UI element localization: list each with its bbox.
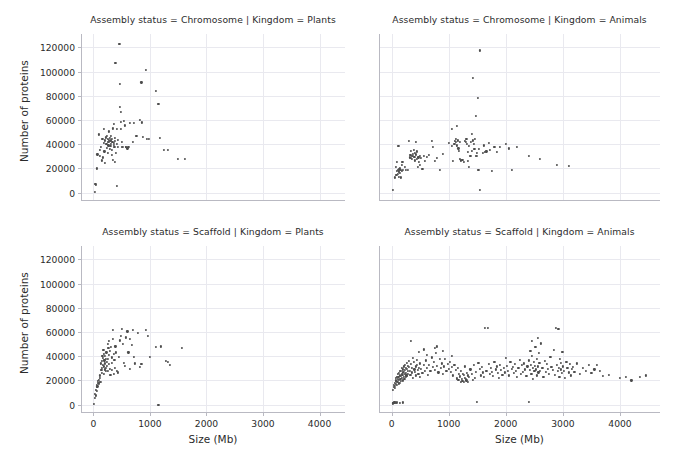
data-point [420, 368, 422, 370]
y-tick-mark [78, 144, 81, 145]
panel-title-scaffold-animals: Assembly status = Scaffold | Kingdom = A… [379, 226, 660, 237]
data-point [428, 364, 430, 366]
data-point [425, 359, 427, 361]
y-tick-label: 0 [69, 187, 75, 198]
data-point [467, 160, 469, 162]
data-point [524, 368, 526, 370]
data-point [155, 346, 157, 348]
data-point [129, 338, 131, 340]
data-point [588, 364, 590, 366]
x-tick-mark [93, 413, 94, 416]
axis-spine-left [81, 34, 82, 201]
y-tick-label: 100000 [40, 278, 75, 289]
data-point [478, 188, 480, 190]
data-point [531, 340, 533, 342]
data-point [109, 145, 111, 147]
data-point [95, 394, 97, 396]
data-point [131, 344, 133, 346]
data-point [533, 360, 535, 362]
data-point [111, 148, 113, 150]
data-point [483, 376, 485, 378]
data-point [396, 161, 398, 163]
plot-area-scaffold-animals [379, 246, 660, 413]
y-tick-label: 20000 [46, 163, 75, 174]
data-point [590, 372, 592, 374]
data-point [107, 152, 109, 154]
data-point [508, 374, 510, 376]
data-point [428, 154, 430, 156]
y-tick-mark [78, 96, 81, 97]
data-point [427, 374, 429, 376]
data-point [479, 49, 481, 51]
x-tick-mark [206, 413, 207, 416]
data-point [534, 346, 536, 348]
data-point [563, 370, 565, 372]
data-point [568, 371, 570, 373]
data-point [112, 337, 114, 339]
data-point [106, 365, 108, 367]
data-point [496, 151, 498, 153]
data-point [430, 356, 432, 358]
y-tick-label: 80000 [46, 90, 75, 101]
data-point [412, 357, 414, 359]
gridline-horizontal [379, 308, 660, 309]
data-point [493, 145, 495, 147]
data-point [517, 367, 519, 369]
y-tick-mark [78, 405, 81, 406]
gridline-vertical [150, 246, 151, 413]
data-point [582, 367, 584, 369]
data-point [132, 141, 134, 143]
x-tick-label: 4000 [608, 418, 631, 429]
data-point [408, 360, 410, 362]
gridline-vertical [206, 34, 207, 201]
data-point [438, 358, 440, 360]
data-point [468, 145, 470, 147]
data-point [554, 374, 556, 376]
data-point [124, 365, 126, 367]
gridline-horizontal [379, 284, 660, 285]
data-point [110, 135, 112, 137]
data-point [135, 135, 137, 137]
data-point [392, 389, 394, 391]
data-point [523, 362, 525, 364]
x-tick-mark [263, 413, 264, 416]
data-point [114, 161, 116, 163]
gridline-vertical [263, 246, 264, 413]
data-point [409, 374, 411, 376]
data-point [400, 164, 402, 166]
data-point [529, 369, 531, 371]
data-point [422, 155, 424, 157]
data-point [541, 367, 543, 369]
y-tick-label: 120000 [40, 42, 75, 53]
y-tick-mark [78, 72, 81, 73]
data-point [122, 343, 124, 345]
data-point [119, 106, 121, 108]
data-point [525, 375, 527, 377]
gridline-horizontal [81, 259, 345, 260]
data-point [410, 367, 412, 369]
data-point [136, 331, 138, 333]
data-point [539, 158, 541, 160]
data-point [464, 365, 466, 367]
data-point [478, 148, 480, 150]
data-point [125, 336, 127, 338]
data-point [518, 359, 520, 361]
data-point [602, 375, 604, 377]
x-axis-label-right: Size (Mb) [495, 433, 544, 445]
data-point [167, 148, 169, 150]
data-point [475, 371, 477, 373]
data-point [442, 350, 444, 352]
y-tick-label: 40000 [46, 139, 75, 150]
axis-spine-bottom [81, 412, 345, 413]
data-point [421, 168, 423, 170]
gridline-vertical [506, 34, 507, 201]
data-point [429, 370, 431, 372]
data-point [115, 152, 117, 154]
data-point [608, 374, 610, 376]
gridline-horizontal [81, 308, 345, 309]
data-point [560, 368, 562, 370]
data-point [489, 148, 491, 150]
data-point [593, 368, 595, 370]
x-tick-mark [320, 413, 321, 416]
data-point [516, 145, 518, 147]
